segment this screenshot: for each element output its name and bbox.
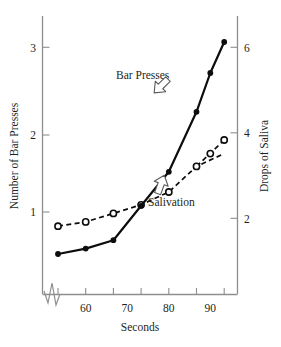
bar-presses-point-55 (55, 251, 61, 257)
annotation-label-bar-presses: Bar Presses (116, 69, 170, 81)
bar-presses-point-75 (166, 169, 172, 175)
salivation-point-65 (110, 210, 116, 216)
left-axis-title: Number of Bar Presses (8, 102, 20, 209)
bar-presses-point-90 (221, 39, 227, 45)
right-tick-label-6: 6 (244, 42, 250, 54)
annotation-label-salivation: Salivation (148, 196, 195, 208)
x-tick-label-90: 90 (205, 302, 217, 314)
bar-presses-point-70 (138, 203, 144, 209)
bar-presses-point-80 (194, 109, 200, 115)
left-tick-label-2: 2 (30, 129, 36, 141)
chart-plot-area: 60 70 80 90 3 2 1 6 4 2 Seconds Number o… (0, 0, 281, 347)
bar-presses-point-60 (83, 246, 89, 252)
x-tick-label-70: 70 (121, 302, 133, 314)
salivation-point-90 (221, 137, 227, 143)
left-tick-label-1: 1 (30, 206, 36, 218)
salivation-point-75 (166, 189, 172, 195)
salivation-point-80 (193, 163, 199, 169)
salivation-point-60 (83, 219, 89, 225)
left-tick-label-3: 3 (30, 42, 36, 54)
right-tick-label-4: 4 (244, 127, 250, 139)
bar-presses-point-85 (207, 70, 213, 76)
salivation-point-55 (55, 223, 61, 229)
bar-presses-point-65 (111, 237, 117, 243)
right-axis-title: Drops of Saliva (258, 120, 271, 192)
x-tick-label-80: 80 (163, 302, 175, 314)
salivation-point-85 (207, 151, 213, 157)
x-axis-title: Seconds (121, 321, 160, 333)
x-tick-label-60: 60 (80, 302, 92, 314)
right-tick-label-2: 2 (244, 213, 250, 225)
chart-figure: 60 70 80 90 3 2 1 6 4 2 Seconds Number o… (0, 0, 281, 347)
